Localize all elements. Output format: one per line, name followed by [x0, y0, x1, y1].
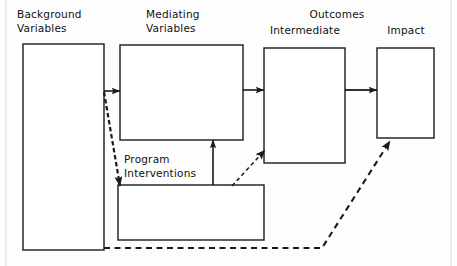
- box-program-interventions[interactable]: [118, 185, 264, 240]
- box-impact[interactable]: [377, 48, 434, 138]
- label-program-interventions: Program Interventions: [124, 153, 220, 180]
- label-intermediate: Intermediate: [256, 24, 354, 38]
- arrow-program-to-intermediate: [232, 150, 265, 186]
- box-intermediate[interactable]: [264, 48, 345, 163]
- arrow-background-to-program: [104, 92, 120, 186]
- diagram-canvas: Background Variables Mediating Variables…: [0, 0, 457, 266]
- box-background-variables[interactable]: [23, 44, 104, 250]
- label-outcomes-heading: Outcomes: [289, 8, 385, 20]
- box-mediating-variables[interactable]: [120, 45, 243, 140]
- label-background-variables: Background Variables: [17, 8, 101, 35]
- diagram-vector-layer: [0, 0, 457, 266]
- label-mediating-variables: Mediating Variables: [146, 8, 236, 35]
- label-impact: Impact: [378, 24, 434, 38]
